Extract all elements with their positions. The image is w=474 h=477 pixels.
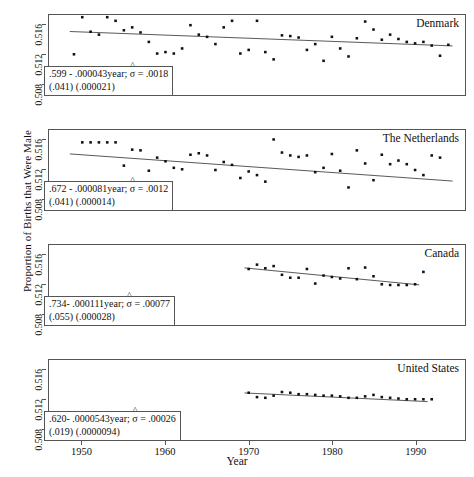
data-point	[214, 43, 217, 46]
annotation-line-2: (.041) (.000021)	[49, 81, 168, 94]
data-point	[422, 271, 425, 274]
hat-accent: ^	[130, 61, 135, 70]
data-point	[98, 141, 101, 144]
x-tick-mark-1980	[332, 441, 333, 445]
data-point	[414, 398, 417, 401]
data-point	[281, 391, 284, 394]
y-tick-1-0: 0.508	[0, 194, 46, 206]
data-point	[381, 153, 384, 156]
data-point	[297, 393, 300, 396]
data-point	[156, 156, 159, 159]
data-point	[131, 148, 134, 151]
data-point	[314, 282, 317, 285]
data-point	[131, 26, 134, 29]
data-point	[306, 154, 309, 157]
data-point	[389, 397, 392, 400]
data-point	[356, 37, 359, 40]
data-point	[139, 31, 142, 34]
data-point	[414, 42, 417, 45]
data-point	[364, 266, 367, 269]
data-point	[181, 47, 184, 50]
y-tick-3-1: 0.512	[0, 394, 46, 406]
y-tick-mark	[42, 139, 46, 140]
regression-annotation-united-states: .620- .0000543year; σ^ = .00026(.019) (.…	[44, 411, 181, 441]
data-point	[256, 20, 259, 23]
data-point	[264, 180, 267, 183]
data-point	[314, 394, 317, 397]
data-point	[247, 49, 250, 52]
data-point	[164, 51, 167, 54]
data-point	[430, 44, 433, 47]
data-point	[372, 394, 375, 397]
data-point	[422, 398, 425, 401]
y-tick-2-2: 0.516	[0, 249, 46, 261]
x-tick-mark-1990	[416, 441, 417, 445]
data-point	[181, 168, 184, 171]
data-point	[331, 394, 334, 397]
figure-sex-ratio-trends: Proportion of Births that Were Male Denm…	[0, 0, 474, 477]
sigma-hat-symbol: σ^	[130, 68, 135, 81]
data-point	[139, 149, 142, 152]
panel-title: The Netherlands	[383, 132, 459, 144]
y-tick-label: 0.516	[34, 369, 44, 390]
data-point	[331, 276, 334, 279]
data-point	[114, 20, 117, 23]
y-tick-mark	[42, 169, 46, 170]
y-tick-label: 0.508	[34, 199, 44, 220]
data-point	[414, 283, 417, 286]
data-point	[364, 20, 367, 23]
data-point	[381, 396, 384, 399]
data-point	[206, 154, 209, 157]
panel-title: United States	[397, 362, 459, 374]
y-tick-mark	[42, 254, 46, 255]
data-point	[372, 28, 375, 31]
data-point	[114, 141, 117, 144]
y-tick-2-1: 0.512	[0, 279, 46, 291]
data-point	[397, 159, 400, 162]
data-point	[247, 268, 250, 271]
regression-annotation-the-netherlands: .672 - .000081year; σ^ = .0012(.041) (.0…	[44, 181, 173, 211]
data-point	[272, 394, 275, 397]
data-point	[339, 47, 342, 50]
data-point	[322, 167, 325, 170]
regression-line	[245, 393, 428, 402]
data-point	[381, 38, 384, 41]
y-tick-label: 0.512	[34, 284, 44, 305]
y-tick-mark	[42, 284, 46, 285]
y-tick-1-2: 0.516	[0, 134, 46, 146]
data-point	[422, 174, 425, 177]
data-point	[73, 53, 76, 56]
data-point	[397, 284, 400, 287]
data-point	[231, 20, 234, 23]
y-tick-mark	[42, 399, 46, 400]
data-point	[322, 60, 325, 63]
scatter-points	[247, 391, 433, 401]
data-point	[247, 170, 250, 173]
data-point	[397, 38, 400, 41]
data-point	[405, 398, 408, 401]
sigma-hat-symbol: σ^	[127, 298, 132, 311]
sigma-hat-symbol: σ^	[132, 413, 137, 426]
panel-title: Canada	[425, 247, 459, 259]
data-point	[297, 156, 300, 159]
y-tick-label: 0.516	[34, 139, 44, 160]
data-point	[98, 33, 101, 36]
data-point	[306, 49, 309, 52]
data-point	[289, 35, 292, 38]
data-point	[289, 154, 292, 157]
data-point	[322, 394, 325, 397]
data-point	[272, 58, 275, 61]
data-point	[239, 177, 242, 180]
regression-annotation-denmark: .599 - .000043year; σ^ = .0018(.041) (.0…	[44, 66, 173, 96]
y-axis-title: Proportion of Births that Were Male	[21, 91, 33, 331]
y-tick-label: 0.512	[34, 399, 44, 420]
data-point	[347, 397, 350, 400]
data-point	[356, 397, 359, 400]
data-point	[289, 391, 292, 394]
data-point	[322, 274, 325, 277]
data-point	[339, 395, 342, 398]
data-point	[389, 33, 392, 36]
data-point	[264, 267, 267, 270]
data-point	[123, 164, 126, 167]
x-axis-title: Year	[0, 455, 474, 467]
